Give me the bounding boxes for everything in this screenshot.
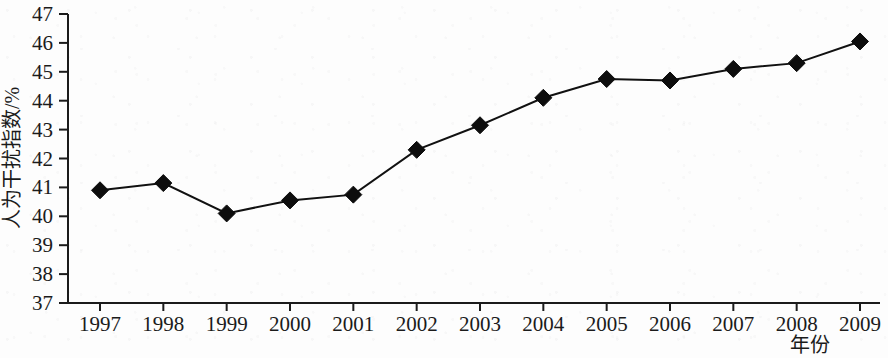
chart-figure: 3738394041424344454647 19971998199920002… (0, 0, 888, 358)
x-tick-label-2005: 2005 (586, 312, 628, 336)
y-tick-label-43: 43 (32, 118, 53, 142)
x-tick-label-2001: 2001 (332, 312, 374, 336)
y-tick-label-42: 42 (32, 147, 53, 171)
y-tick-label-40: 40 (32, 204, 53, 228)
y-tick-label-41: 41 (32, 175, 53, 199)
x-axis-ticks (100, 303, 860, 311)
data-point-2009 (852, 33, 869, 50)
data-point-1999 (218, 205, 235, 222)
x-tick-label-1998: 1998 (142, 312, 184, 336)
x-tick-label-2000: 2000 (269, 312, 311, 336)
axis-lines (68, 14, 880, 303)
x-tick-label-1997: 1997 (79, 312, 121, 336)
x-tick-label-2003: 2003 (459, 312, 501, 336)
x-tick-label-1999: 1999 (206, 312, 248, 336)
line-chart-plot: 3738394041424344454647 19971998199920002… (0, 0, 888, 358)
data-point-1997 (92, 182, 109, 199)
data-point-2002 (408, 141, 425, 158)
y-axis-tick-labels: 3738394041424344454647 (32, 2, 54, 315)
data-point-2003 (472, 117, 489, 134)
x-tick-label-2009: 2009 (839, 312, 881, 336)
data-point-2001 (345, 186, 362, 203)
data-point-2000 (282, 192, 299, 209)
x-tick-label-2008: 2008 (776, 312, 818, 336)
y-tick-label-47: 47 (32, 2, 53, 26)
y-axis-title: 人为干扰指数/% (1, 87, 23, 229)
y-tick-label-37: 37 (32, 291, 53, 315)
data-point-markers (92, 33, 869, 222)
x-tick-label-2007: 2007 (712, 312, 754, 336)
y-tick-label-46: 46 (32, 31, 53, 55)
y-tick-label-38: 38 (32, 262, 53, 286)
x-tick-label-2002: 2002 (396, 312, 438, 336)
y-axis-ticks (59, 14, 68, 303)
y-tick-label-39: 39 (32, 233, 53, 257)
data-point-2005 (598, 71, 615, 88)
data-point-2006 (662, 72, 679, 89)
y-tick-label-44: 44 (32, 89, 54, 113)
x-axis-tick-labels: 1997199819992000200120022003200420052006… (79, 312, 881, 336)
data-point-2008 (788, 55, 805, 72)
y-tick-label-45: 45 (32, 60, 53, 84)
data-point-1998 (155, 175, 172, 192)
x-tick-label-2006: 2006 (649, 312, 691, 336)
x-tick-label-2004: 2004 (522, 312, 565, 336)
data-point-2004 (535, 89, 552, 106)
data-point-2007 (725, 60, 742, 77)
x-axis-title: 年份 (790, 334, 830, 356)
